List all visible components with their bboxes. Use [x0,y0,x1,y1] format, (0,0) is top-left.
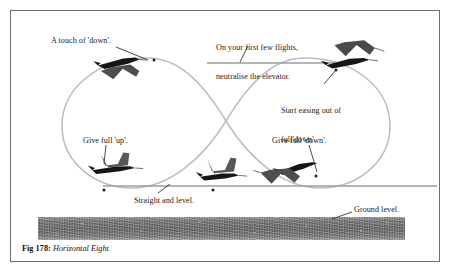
marker-left-bottom [103,189,106,192]
annotation-touch-of-down: A touch of 'down'. [51,36,111,46]
annotation-line-1: Start easing out of [281,106,341,116]
annotation-start-easing-out: Start easing out of full'down'. [281,87,341,164]
aircraft-tail-fin [196,172,203,177]
annotation-line-1: On your first few flights, [216,43,298,53]
leader-start-easing-out [324,71,335,84]
marker-center-bottom [212,189,215,192]
annotation-straight-and-level: Straight and level. [134,196,194,206]
aircraft-top-right-upper [334,38,384,58]
aircraft-left-climb [87,152,143,175]
marker-top-right [335,69,338,72]
aircraft-nose-line [239,175,247,176]
aircraft-nose-line [375,47,384,52]
flight-path-left-loop [62,58,226,188]
aircraft-nose-line [135,168,143,169]
aircraft-wing [207,157,237,173]
annotation-give-full-down: Give full 'down'. [272,136,327,146]
aircraft-nose-line [253,170,260,174]
figure-number: Fig 178: [22,244,51,253]
aircraft-wing [334,39,375,58]
aircraft-tail-fin [88,165,95,170]
figure-caption: Fig 178: Horizontal Eight [22,244,109,253]
annotation-line-2: neutralise the elevator. [216,72,298,82]
annotation-give-full-up: Give full 'up'. [83,136,128,146]
leader-ground-level [332,212,352,219]
marker-right-bottom [315,175,318,178]
figure-page: A touch of 'down'. On your first few fli… [0,0,464,276]
marker-top-left [153,59,156,62]
aircraft-center-level [195,157,247,181]
annotation-ground-level: Ground level. [354,205,399,215]
aircraft-wing [101,152,130,167]
aircraft-fuselage [200,173,239,181]
figure-title: Horizontal Eight [53,244,109,253]
aircraft-nose-line [370,59,378,62]
